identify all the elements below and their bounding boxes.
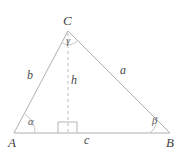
side-label-a: a (120, 64, 126, 76)
vertex-label-c: C (63, 14, 72, 27)
vertex-label-a: A (8, 136, 16, 149)
angle-label-gamma: γ (66, 36, 70, 47)
side-label-c: c (84, 134, 89, 146)
side-label-b: b (27, 69, 33, 81)
angle-label-beta: β (152, 116, 157, 127)
side-b-line (14, 31, 68, 133)
triangle-figure: A B C a b c h α β γ (0, 0, 182, 160)
vertex-label-b: B (166, 136, 174, 149)
angle-label-alpha: α (28, 117, 34, 128)
altitude-label-h: h (71, 74, 77, 86)
